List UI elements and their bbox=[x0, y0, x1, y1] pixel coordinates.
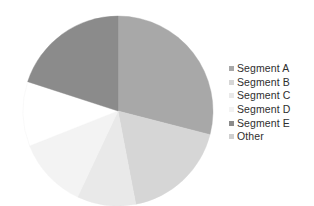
legend-item-other[interactable]: Other bbox=[229, 130, 264, 144]
legend-item-segment-b[interactable]: Segment B bbox=[229, 76, 290, 90]
legend-item-label: Segment C bbox=[237, 90, 290, 101]
legend-item-label: Segment B bbox=[237, 77, 290, 88]
pie-chart-figure: Segment A: 29%Segment B: 18%Segment C: 1… bbox=[0, 0, 314, 206]
legend-item-segment-c[interactable]: Segment C bbox=[229, 89, 290, 103]
legend-swatch-icon bbox=[229, 93, 234, 98]
legend-swatch-icon bbox=[229, 121, 234, 126]
legend-item-segment-e[interactable]: Segment E bbox=[229, 116, 290, 130]
legend-item-label: Segment A bbox=[237, 63, 289, 74]
legend-swatch-icon bbox=[229, 66, 234, 71]
pie-plot-area: Segment A: 29%Segment B: 18%Segment C: 1… bbox=[0, 0, 226, 206]
legend-swatch-icon bbox=[229, 107, 234, 112]
chart-legend: Segment ASegment BSegment CSegment DSegm… bbox=[229, 62, 314, 144]
legend-item-segment-d[interactable]: Segment D bbox=[229, 103, 290, 117]
legend-swatch-icon bbox=[229, 134, 234, 139]
pie-slice-group: Segment A: 29%Segment B: 18%Segment C: 1… bbox=[23, 16, 213, 206]
legend-item-segment-a[interactable]: Segment A bbox=[229, 62, 289, 76]
legend-swatch-icon bbox=[229, 80, 234, 85]
legend-item-label: Other bbox=[237, 131, 264, 142]
legend-item-label: Segment D bbox=[237, 104, 290, 115]
legend-item-label: Segment E bbox=[237, 118, 290, 129]
pie-svg: Segment A: 29%Segment B: 18%Segment C: 1… bbox=[0, 0, 226, 206]
